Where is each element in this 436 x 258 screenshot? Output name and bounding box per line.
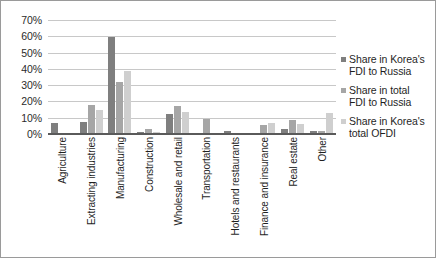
x-axis-category-label: Other xyxy=(316,137,327,162)
bar xyxy=(166,114,173,134)
bar xyxy=(203,119,210,134)
x-axis-label-cell: Agriculture xyxy=(48,137,77,255)
bar-group xyxy=(77,20,106,134)
bar-group xyxy=(163,20,192,134)
legend-item[interactable]: Share in Korea'stotal OFDI xyxy=(341,115,435,139)
x-axis-category-label: Agriculture xyxy=(57,137,68,184)
x-axis-category-label: Real estate xyxy=(287,137,298,187)
legend-swatch-icon xyxy=(341,88,346,93)
x-axis-category-label: Hotels and restaurants xyxy=(230,137,241,235)
bar xyxy=(88,105,95,134)
bar xyxy=(174,106,181,134)
bar xyxy=(182,112,189,134)
bar xyxy=(124,71,131,135)
bar xyxy=(96,110,103,134)
bar xyxy=(326,113,333,134)
y-axis-tick-label: 60% xyxy=(21,30,42,42)
y-axis-tick-label: 40% xyxy=(21,63,42,75)
y-axis-tick-label: 30% xyxy=(21,79,42,91)
x-axis-category-label: Finance and insurance xyxy=(258,137,269,236)
x-axis-category-label: Construction xyxy=(143,137,154,192)
bar xyxy=(116,82,123,134)
bar-group xyxy=(307,20,336,134)
legend-swatch-icon xyxy=(341,57,346,62)
x-axis-label-cell: Transportation xyxy=(192,137,221,255)
y-axis: 70%60%50%40%30%20%10%0% xyxy=(3,20,45,134)
y-axis-tick-label: 70% xyxy=(21,14,42,26)
legend-item-label: Share in totalFDI to Russia xyxy=(349,84,411,108)
y-axis-tick-label: 50% xyxy=(21,47,42,59)
x-axis-category-label: Transportation xyxy=(201,137,212,200)
bar xyxy=(289,120,296,134)
x-axis-label-cell: Hotels and restaurants xyxy=(221,137,250,255)
x-axis-labels: AgricultureExtracting industriesManufact… xyxy=(48,137,336,255)
y-axis-tick-label: 20% xyxy=(21,95,42,107)
legend-item[interactable]: Share in totalFDI to Russia xyxy=(341,84,435,108)
x-axis-label-cell: Construction xyxy=(134,137,163,255)
bar-group xyxy=(192,20,221,134)
plot-area xyxy=(48,20,336,134)
bar-group xyxy=(134,20,163,134)
x-axis-label-cell: Extracting industries xyxy=(77,137,106,255)
chart-figure: 70%60%50%40%30%20%10%0% AgricultureExtra… xyxy=(0,0,436,258)
bar-group xyxy=(48,20,77,134)
y-axis-tick-label: 0% xyxy=(27,128,42,140)
x-axis-category-label: Manufacturing xyxy=(114,137,125,199)
x-axis-category-label: Wholesale and retail xyxy=(172,137,183,226)
legend-item[interactable]: Share in Korea'sFDI to Russia xyxy=(341,53,435,77)
chart-legend: Share in Korea'sFDI to RussiaShare in to… xyxy=(341,53,435,146)
x-axis-label-cell: Wholesale and retail xyxy=(163,137,192,255)
bar-group xyxy=(250,20,279,134)
x-axis-label-cell: Other xyxy=(307,137,336,255)
legend-item-label: Share in Korea'stotal OFDI xyxy=(349,115,425,139)
x-axis-label-cell: Real estate xyxy=(278,137,307,255)
bar-groups xyxy=(48,20,336,134)
legend-swatch-icon xyxy=(341,119,346,124)
x-axis-label-cell: Finance and insurance xyxy=(250,137,279,255)
x-axis-category-label: Extracting industries xyxy=(86,137,97,225)
x-axis-line xyxy=(48,133,336,135)
x-axis-label-cell: Manufacturing xyxy=(106,137,135,255)
legend-item-label: Share in Korea'sFDI to Russia xyxy=(349,53,425,77)
bar-group xyxy=(106,20,135,134)
y-axis-tick-label: 10% xyxy=(21,112,42,124)
bar-group xyxy=(278,20,307,134)
bar xyxy=(108,37,115,134)
bar-group xyxy=(221,20,250,134)
